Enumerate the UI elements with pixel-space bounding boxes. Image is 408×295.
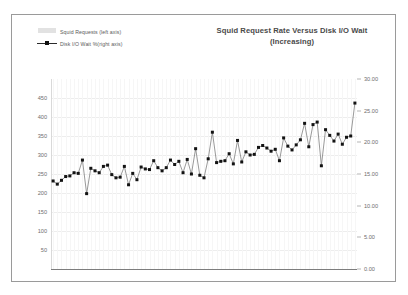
y-axis-tick-label-right: 5.00	[364, 234, 390, 240]
y-axis-tick-right	[357, 205, 361, 206]
y-axis-tick-label-right: 20.00	[364, 139, 390, 145]
y-axis-tick-label-left: 450	[25, 95, 47, 101]
y-axis-tick-right	[357, 110, 361, 111]
y-axis-tick-label-left: 250	[25, 171, 47, 177]
y-axis-tick-label-right: 0.00	[364, 266, 390, 272]
legend-label-disk-io-wait: Disk I/O Wait %(right axis)	[60, 41, 123, 47]
y-axis-tick-label-left: 350	[25, 133, 47, 139]
legend-label-squid-requests: Squid Requests (left axis)	[60, 29, 121, 35]
y-axis-tick-right	[357, 174, 361, 175]
y-axis-tick-right	[357, 79, 361, 80]
y-axis-tick-label-right: 25.00	[364, 108, 390, 114]
area-swatch-icon	[37, 26, 57, 37]
y-axis-tick-label-left: 400	[25, 114, 47, 120]
chart-title-line2: (Increasing)	[192, 36, 392, 47]
legend-item-squid-requests: Squid Requests (left axis)	[37, 26, 187, 37]
y-axis-tick-right	[357, 142, 361, 143]
y-axis-tick-label-left: 50	[25, 247, 47, 253]
legend-item-disk-io-wait: Disk I/O Wait %(right axis)	[37, 38, 187, 49]
chart-container: Squid Requests (left axis) Disk I/O Wait…	[11, 14, 396, 282]
y-axis-tick-label-right: 15.00	[364, 171, 390, 177]
chart-legend: Squid Requests (left axis) Disk I/O Wait…	[37, 26, 187, 50]
y-axis-tick-right	[357, 269, 361, 270]
y-axis-tick-right	[357, 237, 361, 238]
y-axis-tick-label-right: 10.00	[364, 203, 390, 209]
y-axis-tick-label-right: 30.00	[364, 76, 390, 82]
y-axis-tick-label-left: 100	[25, 228, 47, 234]
y-axis-tick-label-left: 300	[25, 152, 47, 158]
series-disk-io-wait	[51, 79, 357, 269]
page-title: Squid Request Rate Versus Disk I/O Wait …	[192, 25, 392, 47]
y-axis-tick-label-left: 200	[25, 190, 47, 196]
chart-title-line1: Squid Request Rate Versus Disk I/O Wait	[192, 25, 392, 36]
y-axis-tick-label-left: 150	[25, 209, 47, 215]
x-axis-line	[51, 269, 357, 270]
line-square-marker-icon	[37, 38, 57, 49]
plot-area: 501001502002503003504004500.005.0010.001…	[51, 79, 357, 269]
